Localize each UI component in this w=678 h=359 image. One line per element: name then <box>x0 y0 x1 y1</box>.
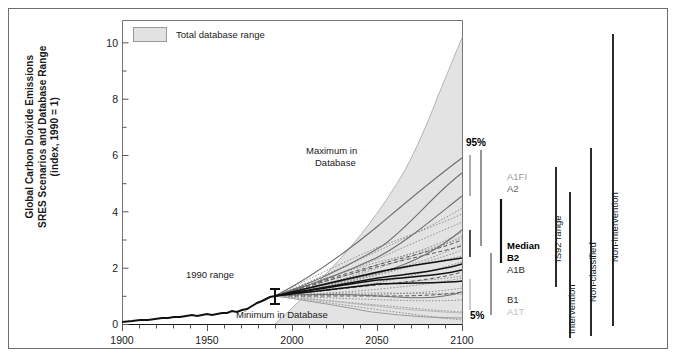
scenario-label-b2: B2 <box>507 252 519 263</box>
figure-container: Global Carbon Dioxide Emissions SRES Sce… <box>0 0 678 359</box>
legend-swatch-total-database-range <box>133 27 167 42</box>
percentile-label-5: 5% <box>470 310 484 321</box>
scenario-label-median: Median <box>507 240 540 251</box>
scenario-label-a1fi: A1FI <box>507 171 527 182</box>
rotated-label-non-intervention: Non-intervention <box>609 192 620 262</box>
y-tick-label-0: 0 <box>96 318 118 330</box>
annotation-maximum-line2: Database <box>315 157 356 168</box>
scenario-label-a2: A2 <box>507 183 519 194</box>
rotated-label-is92-range: IS92 range <box>552 216 563 262</box>
rotated-label-non-classified: Non-classified <box>587 242 598 302</box>
annotation-minimum: Minimum in Database <box>236 309 328 320</box>
x-tick-label-2050: 2050 <box>357 334 397 346</box>
legend-label-total-database-range: Total database range <box>176 29 265 40</box>
percentile-label-95: 95% <box>466 137 486 148</box>
annotation-1990-range: 1990 range <box>186 269 234 280</box>
y-tick-label-2: 2 <box>96 262 118 274</box>
y-tick-label-8: 8 <box>96 93 118 105</box>
y-tick-label-6: 6 <box>96 149 118 161</box>
x-axis-ticks <box>123 325 463 332</box>
scenario-label-a1t: A1T <box>507 306 524 317</box>
x-tick-label-1950: 1950 <box>187 334 227 346</box>
y-tick-label-10: 10 <box>96 37 118 49</box>
scenario-label-b1: B1 <box>507 294 519 305</box>
y-axis-ticks <box>123 43 129 325</box>
scenario-label-a1b: A1B <box>507 264 525 275</box>
annotation-maximum-line1: Maximum in <box>306 145 357 156</box>
x-tick-label-2100: 2100 <box>442 334 482 346</box>
rotated-label-intervention: Intervention <box>566 284 577 334</box>
y-tick-label-4: 4 <box>96 206 118 218</box>
x-tick-label-1900: 1900 <box>102 334 142 346</box>
x-tick-label-2000: 2000 <box>272 334 312 346</box>
